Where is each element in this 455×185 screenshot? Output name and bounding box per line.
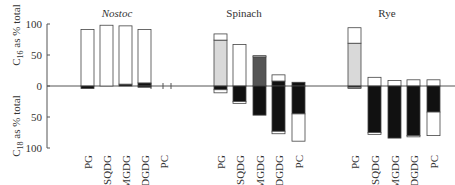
bar-segment-light_grey [348,43,361,86]
bar-segment-white [119,26,132,84]
category-label: MGDG [389,155,401,185]
bar-segment-white [348,87,361,88]
y-axis-label-lower: C18 as % total [10,95,25,156]
bar-segment-white [272,131,285,133]
y-tick-label: 50 [31,49,43,61]
category-label: PC [428,155,440,168]
bar-spinach-sqdg [233,44,246,103]
category-label: SQDG [101,155,113,185]
bar-segment-white [81,30,94,86]
panel-title-nostoc: Nostoc [101,7,133,19]
bar-segment-black [272,81,285,86]
bar-segment-black [138,83,151,86]
y-axis-label-upper: C16 as % total [10,4,25,65]
bars [81,25,440,141]
bar-spinach-pg [214,34,227,93]
bar-segment-black [388,86,401,138]
bar-segment-white [388,80,401,86]
bar-segment-white [214,90,227,93]
bar-segment-black [292,86,305,114]
bar-spinach-mgdg [253,56,266,116]
bar-segment-black [272,86,285,131]
bar-segment-black [427,86,440,112]
category-label: PG [215,155,227,169]
bar-segment-black [292,82,305,86]
bar-segment-white [368,133,381,135]
bar-rye-pg [348,28,361,89]
y-tick-label: 100 [26,18,43,30]
bar-segment-white [272,75,285,81]
bar-segment-white [138,30,151,83]
category-label: PC [158,155,170,168]
category-label: MGDG [254,155,266,185]
bar-segment-dark_grey [253,57,266,86]
panel-title-spinach: Spinach [226,7,262,19]
bar-nostoc-sqdg [100,25,113,86]
y-tick-label: 0 [37,80,43,92]
bar-segment-white [407,80,420,86]
bar-segment-white [233,44,246,86]
bar-spinach-dgdg [272,75,285,134]
bar-spinach-pc [292,82,305,141]
category-label: PG [349,155,361,169]
bar-rye-sqdg [368,77,381,134]
bar-segment-black [253,86,266,115]
bar-rye-dgdg [407,80,420,137]
bar-segment-black [233,86,246,102]
bar-segment-white [348,28,361,44]
category-label: DGDG [408,155,420,185]
bar-segment-black [138,86,151,87]
bar-segment-white [233,102,246,104]
lipid-fatty-acid-chart: 10050050100C16 as % totalC18 as % totalN… [0,0,455,185]
category-label: SQDG [369,155,381,185]
bar-segment-light_grey [214,40,227,86]
category-label: DGDG [139,155,151,185]
bar-segment-black [81,86,94,88]
y-tick-label: 50 [31,111,43,123]
category-label: MGDG [120,155,132,185]
panel-title-rye: Rye [378,7,395,19]
bar-segment-white [427,80,440,86]
bar-segment-white [100,25,113,86]
bar-nostoc-pg [81,30,94,89]
bar-segment-white [368,77,381,86]
category-label: PC [293,155,305,168]
bar-segment-black [368,86,381,133]
bar-nostoc-mgdg [119,26,132,86]
bar-segment-white [214,34,227,40]
category-label: DGDG [273,155,285,185]
bar-segment-black [214,86,227,90]
bar-rye-pc [427,80,440,136]
category-label: PG [82,155,94,169]
category-label: SQDG [234,155,246,185]
bar-segment-white [427,112,440,136]
bar-segment-white [292,114,305,141]
bar-nostoc-dgdg [138,30,151,88]
y-tick-label: 100 [26,142,43,154]
bar-segment-white [407,136,420,137]
bar-segment-white [253,56,266,57]
bar-rye-mgdg [388,80,401,138]
bar-segment-black [407,86,420,136]
chart-container: 10050050100C16 as % totalC18 as % totalN… [0,0,455,185]
